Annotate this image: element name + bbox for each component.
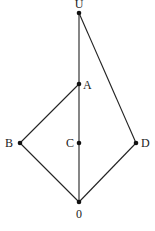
node-o: 0 [76,200,82,221]
node-label: A [83,78,92,92]
edge-group [20,13,136,202]
node-group: UABCD0 [5,0,150,221]
node-dot-icon [134,141,139,146]
node-d: D [134,136,150,150]
node-dot-icon [77,200,82,205]
node-label: C [66,136,74,150]
node-dot-icon [77,11,82,16]
edge-d-o [79,143,136,202]
node-dot-icon [77,141,82,146]
edge-b-o [20,143,79,202]
edge-a-b [20,84,79,143]
node-label: D [141,136,150,150]
node-u: U [75,0,84,15]
node-b: B [5,136,22,150]
node-label: U [75,0,84,11]
node-dot-icon [18,141,23,146]
node-label: B [5,136,13,150]
node-dot-icon [77,82,82,87]
hasse-diagram: UABCD0 [0,0,155,231]
node-label: 0 [76,207,82,221]
